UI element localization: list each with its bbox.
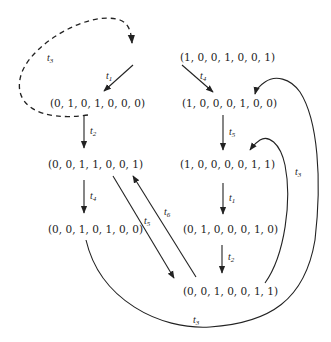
node-n2: (1, 0, 0, 0, 1, 0, 0) (182, 97, 277, 109)
node-n5: (0, 0, 1, 0, 1, 0, 0) (48, 223, 143, 235)
node-n7: (0, 0, 1, 0, 0, 1, 1) (183, 285, 278, 297)
node-n3: (0, 0, 1, 1, 0, 0, 1) (48, 158, 143, 170)
edge-label-t1-top: t1 (106, 70, 112, 83)
edge-label-t3-inner: t3 (295, 166, 302, 179)
edge-label-t1-right: t1 (229, 192, 235, 205)
edge-label-t2-left: t2 (90, 125, 97, 138)
edge-label-t3-dashed: t3 (47, 52, 54, 65)
node-n4: (1, 0, 0, 0, 0, 1, 1) (180, 158, 275, 170)
edge-label-t3-outer: t3 (193, 314, 200, 327)
reachability-graph: (1, 0, 0, 1, 0, 0, 1) (0, 1, 0, 1, 0, 0,… (0, 0, 331, 342)
edge-label-t5-right: t5 (229, 126, 236, 139)
node-n0: (1, 0, 0, 1, 0, 0, 1) (180, 51, 275, 63)
edge-label-t4-left: t4 (90, 190, 97, 203)
edge-label-t6-diag: t6 (164, 206, 171, 219)
edge-label-t2-right: t2 (228, 251, 235, 264)
edge-label-t5-diag: t5 (144, 215, 151, 228)
edge-n0-n2-t4 (182, 65, 213, 92)
node-n1: (0, 1, 0, 1, 0, 0, 0) (50, 97, 145, 109)
node-n6: (0, 1, 0, 0, 0, 1, 0) (183, 223, 278, 235)
